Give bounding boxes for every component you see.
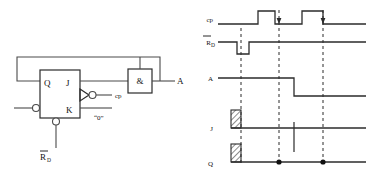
- timing-diagram: cp R D A J: [203, 10, 366, 168]
- timing-row-q: Q: [208, 144, 366, 168]
- reset-label: R: [40, 152, 46, 162]
- and-gate-label: &: [137, 76, 144, 86]
- timing-row-cp: cp: [206, 11, 366, 24]
- left-input-bubble-icon: [33, 105, 40, 112]
- waveform-a: [218, 78, 366, 96]
- cp-edge-arrow-1: [277, 18, 282, 24]
- figure-svg: Q J K cp “0” R: [0, 0, 374, 180]
- q-sample-dot-2: [320, 159, 325, 164]
- timing-label-a: A: [208, 75, 213, 83]
- timing-row-a: A: [208, 75, 366, 96]
- timing-label-q: Q: [208, 160, 213, 168]
- timing-label-rd-subscript: D: [211, 42, 215, 48]
- circuit-diagram: Q J K cp “0” R: [14, 57, 184, 163]
- waveform-rd: [218, 42, 366, 54]
- j-undefined-region: [231, 110, 241, 128]
- timing-label-j: J: [210, 125, 213, 133]
- flipflop-q-label: Q: [44, 78, 51, 88]
- clock-triangle-icon: [80, 89, 89, 101]
- figure-canvas: Q J K cp “0” R: [0, 0, 374, 180]
- timing-label-cp: cp: [206, 16, 213, 24]
- output-a-label: A: [177, 76, 184, 86]
- waveform-cp: [218, 11, 366, 24]
- timing-row-rd: R D: [203, 36, 366, 54]
- cp-edge-arrow-2: [321, 18, 326, 24]
- clock-bubble-icon: [89, 92, 96, 99]
- flipflop-k-label: K: [66, 105, 73, 115]
- q-sample-dot-1: [276, 159, 281, 164]
- constant-zero-label: “0”: [94, 114, 104, 122]
- reset-subscript: D: [47, 157, 51, 163]
- clock-label: cp: [115, 92, 122, 100]
- reset-label-group: R D: [40, 151, 51, 163]
- reset-bubble-icon: [53, 118, 60, 125]
- q-undefined-region: [231, 144, 241, 162]
- flipflop-j-label: J: [66, 78, 70, 88]
